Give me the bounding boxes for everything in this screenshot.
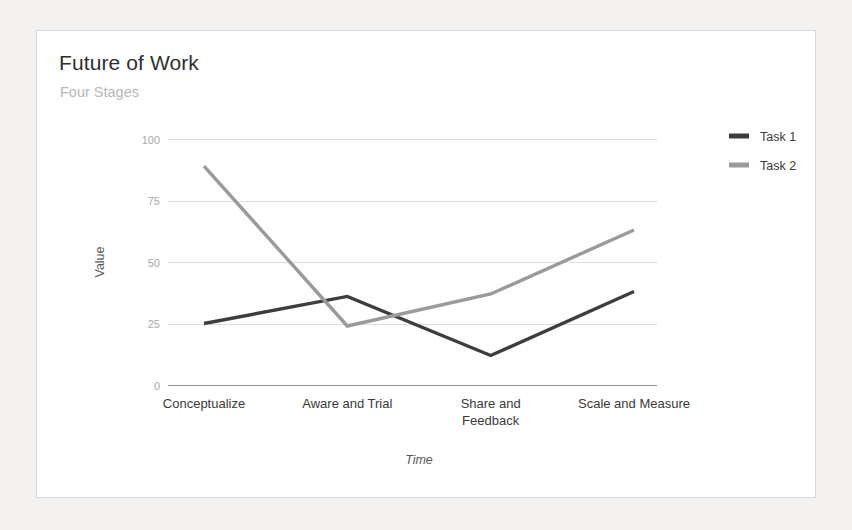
y-tick-label: 100 (142, 134, 160, 146)
y-tick-label: 25 (148, 318, 160, 330)
data-series-group (204, 166, 634, 355)
x-category-label: Share and (461, 396, 521, 411)
y-tick-label: 75 (148, 195, 160, 207)
y-axis-tick-labels: 0255075100 (142, 134, 160, 392)
x-category-label: Aware and Trial (302, 396, 392, 411)
x-category-label: Feedback (462, 413, 520, 428)
y-tick-label: 0 (154, 380, 160, 392)
legend-label-1: Task 1 (760, 130, 796, 144)
x-category-label: Conceptualize (163, 396, 245, 411)
legend-label-2: Task 2 (760, 159, 796, 173)
x-axis-title: Time (405, 453, 433, 467)
y-axis-title: Value (93, 246, 107, 277)
series-line-2 (204, 166, 634, 326)
chart-legend: Task 1Task 2 (729, 130, 796, 173)
line-chart-plot: 0255075100 ConceptualizeAware and TrialS… (37, 31, 817, 499)
axis-titles: ValueTime (93, 246, 433, 467)
x-axis-category-labels: ConceptualizeAware and TrialShare andFee… (163, 396, 690, 428)
chart-card: Future of Work Four Stages 0255075100 Co… (36, 30, 816, 498)
y-tick-label: 50 (148, 257, 160, 269)
gridlines-group (168, 140, 657, 386)
x-category-label: Scale and Measure (578, 396, 690, 411)
